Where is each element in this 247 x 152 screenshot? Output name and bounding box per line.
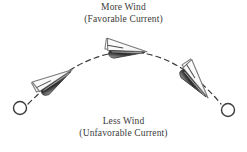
end-mark-circle <box>222 104 235 117</box>
bottom-label-line-2: (Unfavorable Current) <box>0 128 247 140</box>
boat-top <box>104 38 148 63</box>
sailing-tactics-figure: More Wind (Favorable Current) <box>0 0 247 152</box>
boat-right <box>175 59 214 104</box>
bottom-label-line-1: Less Wind <box>0 116 247 128</box>
start-mark-circle <box>14 102 27 115</box>
bottom-label: Less Wind (Unfavorable Current) <box>0 116 247 139</box>
